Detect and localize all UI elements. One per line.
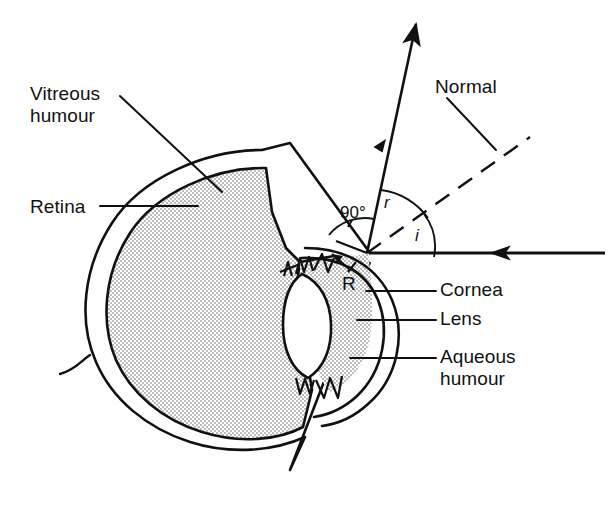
label-angle-90: 90° [340,203,366,223]
incident-ray [369,246,605,261]
label-vitreous-humour: Vitreous humour [30,83,100,128]
label-retina: Retina [30,196,86,218]
label-normal: Normal [435,76,497,98]
angle-arcs [329,190,435,257]
refracted-ray [367,24,416,253]
eye-refraction-diagram [0,0,611,506]
normal-line [367,137,530,253]
optic-nerve-notch [60,355,90,374]
leader-normal [447,98,496,150]
vitreous-humour-body [107,168,312,439]
label-angle-i: i [415,226,419,246]
diagram-canvas: Vitreous humour Retina Normal Cornea Len… [0,0,611,506]
label-lens: Lens [440,308,482,330]
angle-arc-i [424,214,435,257]
label-point-R: R [342,273,356,295]
leader-vitreous [120,96,222,192]
label-angle-r: r [384,193,390,213]
label-cornea: Cornea [440,279,503,301]
label-aqueous-humour: Aqueous humour [440,346,516,391]
arrow-up-icon [374,139,387,153]
